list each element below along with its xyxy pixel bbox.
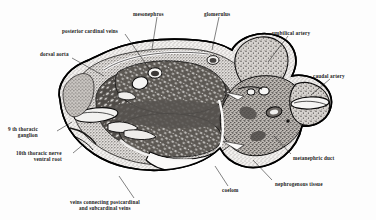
annotation-label-line: umbilical artery <box>272 30 310 36</box>
annotation-label-line: 9 th thoracic <box>8 126 38 132</box>
annotation-label-line: veins connecting postcardinal <box>70 199 140 205</box>
annotation-label-line: and subcardinal veins <box>70 205 140 211</box>
annotation-label-line: ganglion <box>8 132 38 138</box>
annotation-label-posterior-cardinal-veins: posterior cardinal veins <box>62 28 118 34</box>
annotation-label-mesonephros: mesonephros <box>133 11 164 17</box>
annotation-label-line: caudal artery <box>313 73 345 79</box>
annotation-label-glomerulus: glomerulus <box>204 11 230 17</box>
annotation-label-line: dorsal aorta <box>40 51 69 57</box>
annotation-label-umbilical-artery: umbilical artery <box>272 30 310 36</box>
annotation-label-line: metanephric duct <box>293 155 334 161</box>
annotation-label-line: 10th thoracic nerve <box>16 150 62 156</box>
annotation-label-line: glomerulus <box>204 11 230 17</box>
leader-line-tenth-thoracic-nerve-ventral-root <box>73 144 84 153</box>
annotation-label-metanephric-duct: metanephric duct <box>293 155 334 161</box>
specimen-body <box>59 34 331 172</box>
umbilical-artery-lumen-2 <box>247 89 255 95</box>
annotation-label-caudal-artery: caudal artery <box>313 73 345 79</box>
annotation-label-ninth-thoracic-ganglion: 9 th thoracicganglion <box>8 126 38 139</box>
annotation-label-coelom: coelom <box>222 187 238 193</box>
annotation-label-dorsal-aorta: dorsal aorta <box>40 51 69 57</box>
annotation-label-line: mesonephros <box>133 11 164 17</box>
nephrogenic-nucleus <box>286 119 289 122</box>
annotation-label-nephrogenous-tissue: nephrogenous tissue <box>275 181 323 187</box>
glomerulus-tuft <box>151 71 159 77</box>
leader-line-coelom <box>215 166 228 186</box>
annotation-label-veins-connecting-postcardinal-and-subcardinal-veins: veins connecting postcardinaland subcard… <box>70 199 140 212</box>
glomerulus-tuft-2 <box>210 58 217 63</box>
annotation-label-line: posterior cardinal veins <box>62 28 118 34</box>
figure-page: dorsal aortaposterior cardinal veinsmeso… <box>0 0 376 220</box>
umbilical-caudal-region <box>219 37 330 156</box>
leader-line-veins-connecting-postcardinal-and-subcardinal-veins <box>119 176 134 198</box>
annotation-label-line: nephrogenous tissue <box>275 181 323 187</box>
annotation-label-line: ventral root <box>16 156 62 162</box>
annotation-label-line: coelom <box>222 187 238 193</box>
annotation-label-tenth-thoracic-nerve-ventral-root: 10th thoracic nerveventral root <box>16 150 62 163</box>
